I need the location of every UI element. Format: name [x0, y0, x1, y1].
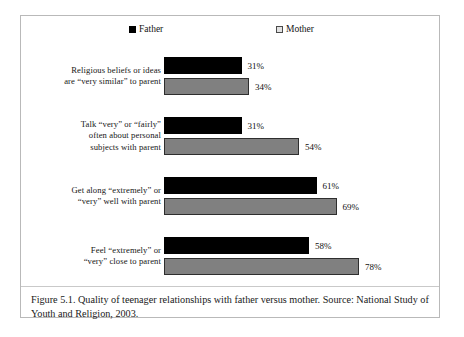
bar-row-mother: 34% [164, 78, 272, 95]
bar-row-father: 58% [164, 237, 332, 254]
category-label-line: are “very similar” to parent [64, 76, 161, 88]
bar-mother [164, 138, 299, 155]
bar-row-mother: 78% [164, 258, 382, 275]
bar-value-mother: 34% [255, 82, 272, 92]
bar-row-father: 31% [164, 57, 264, 74]
category-label: Talk “very” or “fairly” often about pers… [25, 112, 161, 160]
bar-pair: 31% 54% [164, 112, 439, 160]
figure-container: Father Mother Religious beliefs or ideas… [20, 15, 440, 318]
bar-value-father: 61% [323, 181, 340, 191]
bar-value-mother: 69% [343, 202, 360, 212]
chart-legend: Father Mother [21, 24, 439, 44]
bar-row-mother: 69% [164, 198, 359, 215]
bar-father [164, 237, 309, 254]
category-label-line: Religious beliefs or ideas [71, 65, 161, 77]
bar-mother [164, 198, 337, 215]
bar-value-father: 58% [315, 241, 332, 251]
bar-value-father: 31% [248, 61, 265, 71]
bar-mother [164, 78, 249, 95]
outlined-square-icon [276, 26, 283, 33]
bar-row-father: 61% [164, 177, 339, 194]
bar-value-father: 31% [248, 121, 265, 131]
category-label: Religious beliefs or ideas are “very sim… [25, 52, 161, 100]
bar-pair: 31% 34% [164, 52, 439, 100]
bar-father [164, 57, 242, 74]
legend-item-mother: Mother [276, 24, 314, 34]
bar-pair: 58% 78% [164, 232, 439, 280]
legend-label-mother: Mother [286, 24, 314, 34]
bar-row-father: 31% [164, 117, 264, 134]
category-label: Get along “extremely” or “very” well wit… [25, 172, 161, 220]
figure-caption: Figure 5.1. Quality of teenager relation… [31, 293, 429, 321]
chart-plot-area: Religious beliefs or ideas are “very sim… [21, 46, 439, 286]
bar-value-mother: 78% [365, 262, 382, 272]
bar-pair: 61% 69% [164, 172, 439, 220]
bar-value-mother: 54% [305, 142, 322, 152]
category-label-line: Feel “extremely” or [91, 245, 161, 257]
category-label-line: often about personal [89, 130, 161, 142]
legend-item-father: Father [129, 24, 163, 34]
legend-label-father: Father [139, 24, 163, 34]
bar-mother [164, 258, 359, 275]
filled-square-icon [129, 26, 136, 33]
bar-father [164, 177, 317, 194]
category-label-line: “very” close to parent [84, 256, 161, 268]
bar-group: Get along “extremely” or “very” well wit… [21, 172, 439, 220]
bar-group: Religious beliefs or ideas are “very sim… [21, 52, 439, 100]
category-label-line: Get along “extremely” or [72, 185, 162, 197]
bar-row-mother: 54% [164, 138, 322, 155]
category-label: Feel “extremely” or “very” close to pare… [25, 232, 161, 280]
caption-divider [21, 286, 439, 287]
category-label-line: subjects with parent [90, 142, 161, 154]
bar-father [164, 117, 242, 134]
bar-group: Feel “extremely” or “very” close to pare… [21, 232, 439, 280]
category-label-line: Talk “very” or “fairly” [81, 119, 161, 131]
bar-group: Talk “very” or “fairly” often about pers… [21, 112, 439, 160]
category-label-line: “very” well with parent [78, 196, 161, 208]
